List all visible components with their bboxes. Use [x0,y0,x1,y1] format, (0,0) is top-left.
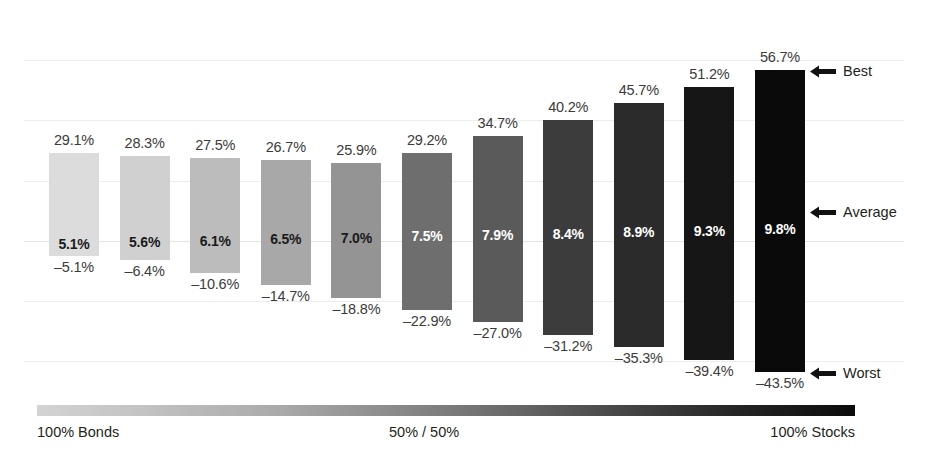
annotation-average: Average [810,204,897,220]
bar-average-label-6: 7.9% [473,227,523,243]
allocation-axis: 100% Bonds 50% / 50% 100% Stocks [0,405,925,467]
bar-range-3 [261,160,311,285]
bar-best-label-2: 27.5% [186,137,244,153]
bar-worst-label-4: –18.8% [325,301,387,317]
bar-worst-label-10: –43.5% [749,375,811,391]
bar-best-label-3: 26.7% [257,139,315,155]
bar-average-label-7: 8.4% [543,226,593,242]
annotation-worst: Worst [810,365,881,381]
bar-best-label-7: 40.2% [539,99,597,115]
bar-worst-label-8: –35.3% [608,350,670,366]
annotation-label: Worst [843,365,881,381]
bar-worst-label-6: –27.0% [467,325,529,341]
annotation-label: Best [843,63,872,79]
bar-best-label-4: 25.9% [327,142,385,158]
bar-best-label-10: 56.7% [751,49,809,65]
bar-average-label-5: 7.5% [402,228,452,244]
left-arrow-icon [810,367,836,380]
left-arrow-icon [810,206,836,219]
bar-worst-label-7: –31.2% [537,338,599,354]
bar-worst-label-3: –14.7% [255,288,317,304]
bar-average-label-1: 5.6% [120,234,170,250]
bar-best-label-5: 29.2% [398,132,456,148]
bar-average-label-8: 8.9% [614,224,664,240]
bar-average-label-0: 5.1% [49,236,99,252]
bar-series-layer: 29.1%5.1%–5.1%28.3%5.6%–6.4%27.5%6.1%–10… [0,0,925,395]
bar-worst-label-2: –10.6% [184,276,246,292]
axis-caption-middle: 50% / 50% [389,424,459,440]
annotation-best: Best [810,63,872,79]
plot-area: 29.1%5.1%–5.1%28.3%5.6%–6.4%27.5%6.1%–10… [0,0,925,395]
bar-best-label-8: 45.7% [610,82,668,98]
bar-best-label-9: 51.2% [680,66,738,82]
bar-average-label-4: 7.0% [331,230,381,246]
bar-average-label-10: 9.8% [755,221,805,237]
left-arrow-icon [810,65,836,78]
bar-average-label-9: 9.3% [684,223,734,239]
axis-caption-right: 100% Stocks [770,424,855,440]
bar-worst-label-5: –22.9% [396,313,458,329]
bar-worst-label-1: –6.4% [114,263,176,279]
bar-average-label-3: 6.5% [261,231,311,247]
allocation-gradient-bar [37,405,855,416]
annotation-label: Average [843,204,897,220]
bar-worst-label-0: –5.1% [43,259,105,275]
portfolio-risk-return-chart: 29.1%5.1%–5.1%28.3%5.6%–6.4%27.5%6.1%–10… [0,0,925,467]
bar-best-label-0: 29.1% [45,132,103,148]
bar-best-label-6: 34.7% [469,115,527,131]
bar-range-2 [190,158,240,273]
bar-worst-label-9: –39.4% [678,363,740,379]
axis-caption-left: 100% Bonds [37,424,119,440]
bar-average-label-2: 6.1% [190,233,240,249]
bar-best-label-1: 28.3% [116,135,174,151]
